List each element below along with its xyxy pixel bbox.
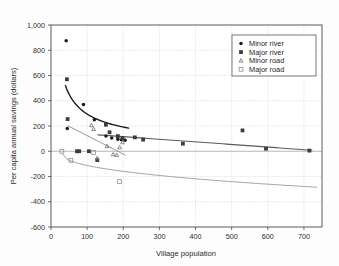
data-point-minor-river [82,103,85,106]
x-tick-label: 700 [298,232,310,241]
x-tick-label: 500 [226,232,238,241]
x-tick-label: 300 [153,232,165,241]
data-point-major-river [264,147,268,151]
y-tick-label: 800 [33,46,45,55]
legend-marker-major-river [239,50,243,54]
scatter-chart: 0100200300400500600700 -600-400-20002004… [0,0,339,266]
data-point-major-river [141,138,145,142]
y-axis-title: Per capita annual savings (dollars) [9,67,18,184]
chart-figure: 0100200300400500600700 -600-400-20002004… [0,0,339,266]
data-point-minor-river [110,136,113,139]
data-point-major-river [241,129,245,133]
data-point-major-river [121,136,125,140]
svg-text:Village population: Village population [156,249,216,258]
x-tick-label: 100 [81,232,93,241]
data-point-major-river [133,135,137,139]
x-tick-label: 400 [190,232,202,241]
y-tick-label: 400 [33,96,45,105]
y-tick-label: -200 [31,172,45,181]
x-tick-label: 200 [117,232,129,241]
y-tick-label: 0 [41,147,45,156]
data-point-minor-river [104,134,107,137]
data-point-major-river [65,77,69,81]
data-point-minor-river [66,127,69,130]
data-point-major-river [104,123,108,127]
data-point-major-river [116,134,120,138]
data-point-major-river [181,142,185,146]
data-point-minor-river [93,118,96,121]
data-point-minor-river [64,39,67,42]
data-point-major-river [307,149,311,153]
chart-legend: Minor riverMajor riverMinor roadMajor ro… [232,35,316,76]
data-point-minor-river [116,138,119,141]
data-point-major-river [87,149,91,153]
svg-text:Per capita annual savings (dol: Per capita annual savings (dollars) [9,67,18,184]
x-axis-title: Village population [156,249,216,258]
y-tick-label: -400 [31,197,45,206]
y-tick-label: 600 [33,71,45,80]
y-tick-label: 1,000 [27,21,45,30]
y-tick-label: -600 [31,223,45,232]
y-axis: -600-400-20002004006008001,000 [27,21,51,232]
x-axis: 0100200300400500600700 [49,227,310,241]
legend-marker-minor-river [239,42,242,45]
x-tick-label: 0 [49,232,53,241]
data-point-major-river [77,149,81,153]
legend-label-major-road: Major road [249,65,284,74]
data-point-major-river [108,130,112,134]
x-tick-label: 600 [262,232,274,241]
data-point-major-river [66,117,70,121]
y-tick-label: 200 [33,122,45,131]
